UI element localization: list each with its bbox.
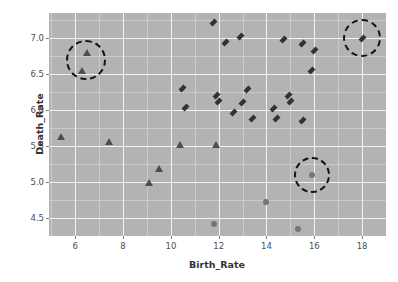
x-tick-label: 16	[309, 241, 320, 251]
x-tick-label: 10	[165, 241, 176, 251]
x-tick-label: 14	[261, 241, 272, 251]
gridline-vertical-minor	[243, 13, 244, 236]
data-point-triangle	[145, 179, 153, 186]
gridline-horizontal-minor	[49, 200, 386, 201]
data-point-diamond	[270, 105, 278, 113]
x-tick-mark	[219, 236, 220, 239]
y-tick-mark	[46, 38, 49, 39]
data-point-diamond	[248, 115, 256, 123]
y-tick-mark	[46, 182, 49, 183]
data-point-diamond	[279, 36, 287, 44]
gridline-vertical-minor	[195, 13, 196, 236]
gridline-vertical-minor	[51, 13, 52, 236]
x-tick-label: 8	[120, 241, 125, 251]
x-tick-label: 6	[73, 241, 78, 251]
data-point-circle	[211, 221, 217, 227]
x-axis-title: Birth_Rate	[189, 259, 245, 270]
gridline-horizontal	[49, 218, 386, 219]
x-tick-mark	[362, 236, 363, 239]
x-tick-mark	[75, 236, 76, 239]
y-tick-label: 5.0	[19, 177, 44, 187]
data-point-triangle	[155, 165, 163, 172]
data-point-circle	[295, 226, 301, 232]
gridline-vertical	[171, 13, 172, 236]
data-point-triangle	[176, 141, 184, 148]
gridline-horizontal-minor	[49, 128, 386, 129]
x-tick-label: 12	[213, 241, 224, 251]
data-point-diamond	[310, 46, 318, 54]
highlight-circle-right	[343, 19, 381, 57]
plot-panel	[49, 13, 386, 236]
highlight-circle-left	[66, 40, 106, 80]
gridline-horizontal	[49, 110, 386, 111]
y-tick-label: 6.5	[19, 69, 44, 79]
gridline-horizontal	[49, 182, 386, 183]
data-point-diamond	[222, 38, 230, 46]
y-tick-label: 7.0	[19, 33, 44, 43]
data-point-triangle	[212, 141, 220, 148]
y-tick-mark	[46, 146, 49, 147]
y-tick-mark	[46, 74, 49, 75]
x-tick-mark	[123, 236, 124, 239]
y-tick-mark	[46, 218, 49, 219]
x-tick-label: 18	[357, 241, 368, 251]
y-tick-mark	[46, 110, 49, 111]
x-tick-mark	[314, 236, 315, 239]
x-tick-mark	[266, 236, 267, 239]
gridline-vertical-minor	[147, 13, 148, 236]
data-point-diamond	[298, 116, 306, 124]
highlight-circle-bottom	[294, 157, 330, 193]
gridline-horizontal	[49, 38, 386, 39]
scatter-plot-figure: 6810121416184.55.05.56.06.57.0 Birth_Rat…	[0, 0, 398, 282]
gridline-vertical	[219, 13, 220, 236]
gridline-vertical	[123, 13, 124, 236]
y-axis-title: Death_Rate	[34, 93, 45, 155]
data-point-triangle	[57, 133, 65, 140]
gridline-horizontal-minor	[49, 164, 386, 165]
data-point-triangle	[105, 138, 113, 145]
data-point-diamond	[272, 114, 280, 122]
y-tick-label: 4.5	[19, 213, 44, 223]
gridline-vertical-minor	[290, 13, 291, 236]
gridline-vertical-minor	[338, 13, 339, 236]
data-point-circle	[263, 199, 269, 205]
data-point-diamond	[298, 40, 306, 48]
x-tick-mark	[171, 236, 172, 239]
